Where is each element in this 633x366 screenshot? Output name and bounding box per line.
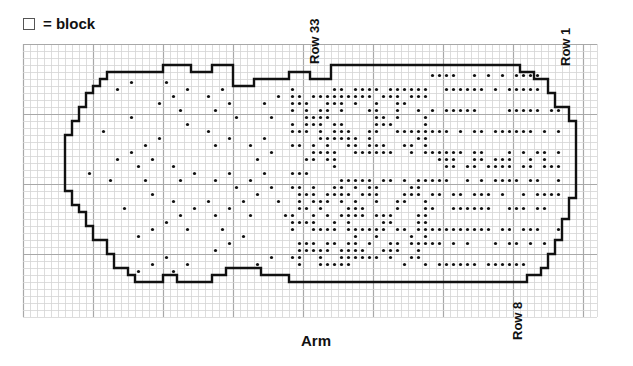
row-1-label: Row 1 xyxy=(558,28,573,66)
row-8-label: Row 8 xyxy=(510,302,525,340)
stitch-dots xyxy=(88,74,560,273)
row-33-label: Row 33 xyxy=(307,18,322,64)
arm-label: Arm xyxy=(301,332,331,349)
